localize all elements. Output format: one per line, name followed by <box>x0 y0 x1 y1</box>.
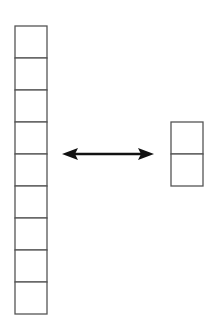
right-stack-cell-2 <box>171 154 203 186</box>
left-stack <box>15 26 47 314</box>
diagram-canvas <box>0 0 218 336</box>
right-stack <box>171 122 203 186</box>
left-stack-cell-9 <box>15 282 47 314</box>
left-stack-cell-6 <box>15 186 47 218</box>
left-stack-cell-2 <box>15 58 47 90</box>
left-stack-cell-8 <box>15 250 47 282</box>
left-stack-cell-1 <box>15 26 47 58</box>
left-stack-cell-3 <box>15 90 47 122</box>
left-stack-cell-4 <box>15 122 47 154</box>
left-stack-cell-7 <box>15 218 47 250</box>
double-headed-arrow <box>62 148 154 160</box>
right-stack-cell-1 <box>171 122 203 154</box>
left-stack-cell-5 <box>15 154 47 186</box>
